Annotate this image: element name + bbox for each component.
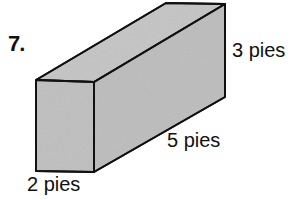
width-label: 2 pies: [27, 173, 80, 196]
height-label: 3 pies: [232, 39, 285, 62]
length-label: 5 pies: [167, 129, 220, 152]
problem-number: 7.: [8, 31, 24, 57]
rectangular-prism: [0, 0, 307, 200]
